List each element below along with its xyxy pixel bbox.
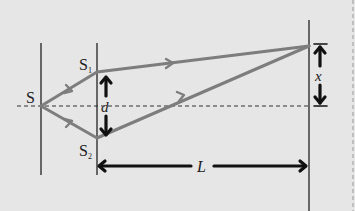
slit-separation-label: d — [101, 99, 109, 115]
screen-distance-label: L — [196, 158, 206, 175]
ray-source-to-s1 — [41, 46, 309, 106]
diagram-svg: S S1 S2 d x L — [0, 0, 355, 211]
slit2-label: S2 — [79, 142, 92, 161]
double-slit-diagram: S S1 S2 d x L — [0, 0, 355, 211]
source-label: S — [26, 89, 35, 106]
fringe-position-label: x — [314, 68, 322, 84]
slit1-label: S1 — [79, 56, 92, 75]
